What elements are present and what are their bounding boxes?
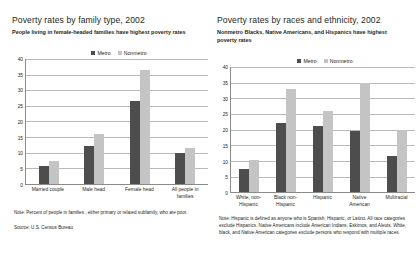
page-title-secondary: Poverty rates by races and ethnicity, 20… <box>217 16 415 26</box>
y-axis-family-type: 40 35 30 25 20 15 10 5 0 <box>12 59 25 185</box>
bar-metro <box>387 156 397 192</box>
y-tick: 0 <box>20 182 23 187</box>
bar-group <box>305 67 342 192</box>
bar-nonmetro <box>49 161 59 184</box>
y-tick: 20 <box>223 128 228 133</box>
x-label: Native American <box>341 195 378 209</box>
legend-swatch-nonmetro <box>118 51 122 55</box>
bar-nonmetro <box>286 89 296 192</box>
x-label: Black non-Hispanic <box>267 195 304 209</box>
x-label: Multiracial <box>378 195 415 209</box>
chart-note-race-ethnicity: Note: Hispanic is defined as anyone who … <box>217 216 415 237</box>
y-tick: 5 <box>225 175 228 180</box>
bar-group <box>268 67 305 192</box>
bar-nonmetro <box>249 160 259 192</box>
y-tick: 30 <box>18 88 23 93</box>
x-axis-labels-race-ethnicity: White, non-Hispanic Black non-Hispanic H… <box>217 195 415 209</box>
chart-source-family-type: Source: U.S. Census Bureau <box>12 225 208 232</box>
legend-label-metro: Metro <box>303 58 316 64</box>
y-tick: 40 <box>223 65 228 70</box>
y-tick: 25 <box>18 104 23 109</box>
y-tick: 35 <box>18 72 23 77</box>
y-tick: 35 <box>223 80 228 85</box>
x-label: Hispanic <box>304 195 341 209</box>
bar-group <box>117 59 163 184</box>
y-tick: 15 <box>223 143 228 148</box>
bars-layer-family-type <box>26 59 208 184</box>
x-label: Married couple <box>25 187 71 201</box>
y-tick: 25 <box>223 112 228 117</box>
legend-swatch-metro <box>297 59 301 63</box>
bars-layer-race-ethnicity <box>231 67 415 192</box>
x-axis-spacer <box>217 195 230 209</box>
legend-label-metro: Metro <box>97 50 110 56</box>
bar-metro <box>313 126 323 192</box>
bar-metro <box>239 169 249 192</box>
legend-label-nonmetro: Nonmetro <box>330 58 353 64</box>
plot-area-race-ethnicity: 40 35 30 25 20 15 10 5 0 <box>217 67 415 193</box>
y-axis-race-ethnicity: 40 35 30 25 20 15 10 5 0 <box>217 67 230 193</box>
figure-container: Poverty rates by family type, 2002 Peopl… <box>0 0 417 273</box>
plot-area-family-type: 40 35 30 25 20 15 10 5 0 <box>12 59 208 185</box>
legend-swatch-nonmetro <box>324 59 328 63</box>
plot-family-type <box>25 59 208 185</box>
x-label: All people in families <box>162 187 208 201</box>
x-axis-labels-family-type: Married couple Male head Female head All… <box>12 187 208 201</box>
bar-nonmetro <box>323 111 333 192</box>
x-label: Male head <box>71 187 117 201</box>
x-axis-spacer <box>12 187 25 201</box>
bar-metro <box>175 153 185 184</box>
y-tick: 15 <box>18 135 23 140</box>
legend-swatch-metro <box>91 51 95 55</box>
chart-subtitle: People living in female-headed families … <box>12 28 192 36</box>
bar-nonmetro <box>94 134 104 184</box>
bar-nonmetro <box>360 83 370 192</box>
legend-item-metro: Metro <box>297 58 316 64</box>
bar-group <box>26 59 72 184</box>
chart-panel-family-type: Poverty rates by family type, 2002 Peopl… <box>0 0 212 273</box>
x-label: White, non-Hispanic <box>230 195 267 209</box>
bar-group <box>163 59 209 184</box>
page-title: Poverty rates by family type, 2002 <box>12 16 208 26</box>
y-tick: 5 <box>20 167 23 172</box>
chart-subtitle-secondary: Nonmetro Blacks, Native Americans, and H… <box>217 28 397 45</box>
bar-nonmetro <box>397 130 407 193</box>
legend-label-nonmetro: Nonmetro <box>124 50 147 56</box>
bar-metro <box>350 131 360 192</box>
bar-nonmetro <box>185 148 195 184</box>
chart-legend-secondary: Metro Nonmetro <box>217 58 415 64</box>
bar-group <box>341 67 378 192</box>
plot-race-ethnicity <box>230 67 415 193</box>
y-tick: 30 <box>223 96 228 101</box>
legend-item-nonmetro: Nonmetro <box>324 58 353 64</box>
bar-group <box>231 67 268 192</box>
y-tick: 0 <box>225 191 228 196</box>
y-tick: 10 <box>18 151 23 156</box>
chart-panel-race-ethnicity: Poverty rates by races and ethnicity, 20… <box>212 0 417 273</box>
bar-metro <box>84 146 94 184</box>
bar-nonmetro <box>140 70 150 183</box>
bar-group <box>378 67 415 192</box>
y-tick: 20 <box>18 119 23 124</box>
legend-item-nonmetro: Nonmetro <box>118 50 147 56</box>
y-tick: 10 <box>223 159 228 164</box>
bar-metro <box>39 166 49 184</box>
x-label: Female head <box>117 187 163 201</box>
chart-note-family-type: Note: Percent of people in families , ei… <box>12 210 192 217</box>
bar-metro <box>276 123 286 192</box>
legend-item-metro: Metro <box>91 50 110 56</box>
y-tick: 40 <box>18 56 23 61</box>
bar-metro <box>130 101 140 184</box>
chart-legend: Metro Nonmetro <box>12 50 208 56</box>
bar-group <box>72 59 118 184</box>
